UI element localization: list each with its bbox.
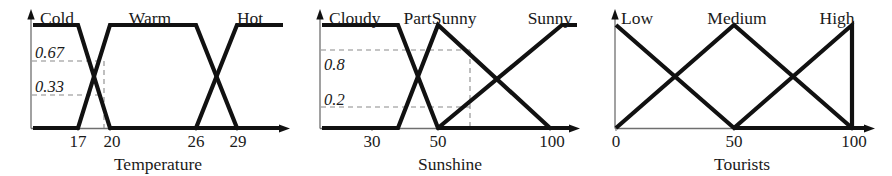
set-label-high: High xyxy=(820,8,855,28)
set-label-warm: Warm xyxy=(129,8,172,28)
membership-curve-partsunny xyxy=(322,25,572,128)
x-axis-title-sunshine: Sunshine xyxy=(418,154,482,174)
x-tick-label-50: 50 xyxy=(430,132,447,151)
set-label-cloudy: Cloudy xyxy=(329,8,381,28)
membership-curve-cold xyxy=(33,25,283,128)
x-tick-label-50: 50 xyxy=(726,132,743,151)
x-tick-label-29: 29 xyxy=(230,132,247,151)
chart-temperature: Cold Warm Hot 0.67 0.33 17 20 26 29 Temp… xyxy=(0,0,300,176)
membership-curve-warm xyxy=(33,25,283,128)
membership-curve-low xyxy=(616,25,867,128)
membership-curve-sunny xyxy=(438,25,577,128)
x-tick-label-0: 0 xyxy=(612,132,621,151)
chart-sunshine: Cloudy PartSunny Sunny 0.8 0.2 30 50 100… xyxy=(300,0,600,176)
grade-label-067: 0.67 xyxy=(35,43,65,62)
x-tick-label-20: 20 xyxy=(104,132,121,151)
x-axis-title-temperature: Temperature xyxy=(114,154,202,174)
x-tick-label-17: 17 xyxy=(70,132,88,151)
x-tick-label-26: 26 xyxy=(188,132,205,151)
grade-label-02: 0.2 xyxy=(324,90,345,109)
grade-label-033: 0.33 xyxy=(35,77,64,96)
grade-label-08: 0.8 xyxy=(324,55,345,74)
set-label-cold: Cold xyxy=(40,8,74,28)
x-tick-label-30: 30 xyxy=(364,132,381,151)
set-label-low: Low xyxy=(621,8,653,28)
x-tick-label-100: 100 xyxy=(539,132,565,151)
set-label-medium: Medium xyxy=(707,8,767,28)
y-axis-arrow-sunshine xyxy=(316,9,323,20)
set-label-sunny: Sunny xyxy=(528,8,573,28)
set-label-partsunny: PartSunny xyxy=(404,8,477,28)
chart-tourists: Low Medium High 0 50 100 Tourists xyxy=(592,0,892,176)
x-axis-title-tourists: Tourists xyxy=(714,154,770,174)
y-axis-arrow-temperature xyxy=(27,9,34,20)
y-axis-arrow-tourists xyxy=(611,9,618,20)
membership-curve-medium xyxy=(616,25,867,128)
fuzzy-membership-figure: Cold Warm Hot 0.67 0.33 17 20 26 29 Temp… xyxy=(0,0,892,176)
x-tick-label-100: 100 xyxy=(841,132,867,151)
set-label-hot: Hot xyxy=(237,8,263,28)
membership-curve-hot xyxy=(196,25,283,128)
